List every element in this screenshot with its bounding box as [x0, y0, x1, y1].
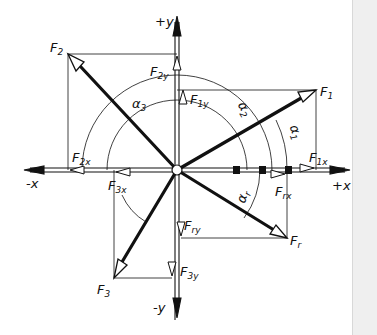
fr-arrowhead: [270, 225, 287, 238]
origin-point: [172, 165, 182, 175]
plus-x-arrowhead: [330, 166, 350, 174]
f2y-label: F2y: [150, 64, 169, 81]
f2x-label: F2x: [72, 150, 91, 167]
frx-label: Frx: [275, 184, 292, 201]
f3x-label: F3x: [108, 178, 127, 195]
plus-y-label: +y: [155, 14, 174, 29]
plus-x-label: +x: [332, 178, 351, 193]
construction-lines: [68, 54, 316, 278]
f1x-arrowhead: [300, 164, 314, 172]
alpha3-label: α3: [132, 96, 147, 113]
f3-label: F3: [97, 282, 110, 299]
alpha1-label: α1: [285, 123, 306, 142]
f3y-label: F3y: [180, 264, 199, 281]
alpha2-label: α2: [233, 99, 255, 120]
f3x-arrowhead: [116, 168, 130, 176]
fry-label: Fry: [184, 218, 201, 235]
f2y-arrowhead: [173, 56, 181, 70]
minus-y-label: -y: [153, 300, 166, 315]
f2-label: F2: [50, 40, 63, 57]
f2x-arrowhead: [70, 166, 84, 174]
minus-x-arrowhead: [24, 166, 44, 174]
axis-markers: [233, 166, 292, 174]
f1y-label: F1y: [190, 92, 209, 109]
plus-y-arrowhead: [173, 16, 181, 36]
alphar-label: αr: [233, 188, 253, 206]
f1-arrowhead: [298, 90, 316, 102]
minus-y-arrowhead: [173, 298, 181, 318]
fr-label: Fr: [290, 233, 302, 250]
force-arrowheads: [68, 54, 316, 278]
component-arrows: [70, 56, 314, 276]
f1x-label: F1x: [309, 150, 328, 167]
f2-vector: [80, 66, 177, 170]
f3-arrowhead: [114, 259, 127, 278]
f1y-arrowhead: [179, 90, 187, 104]
minus-x-label: -x: [26, 176, 39, 191]
f1-label: F1: [320, 84, 333, 101]
frx-arrowhead: [271, 170, 285, 178]
f3-vector: [122, 170, 177, 262]
